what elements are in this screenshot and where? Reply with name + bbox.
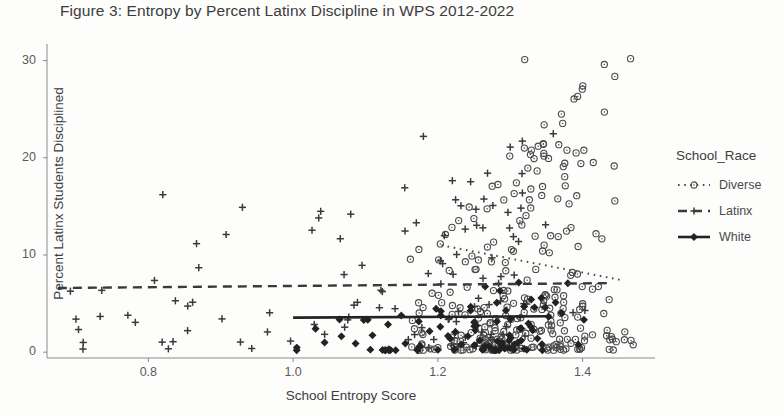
data-point-diverse — [446, 267, 452, 273]
data-point-white — [312, 325, 318, 331]
data-point-diverse — [531, 155, 537, 161]
data-point-diverse — [561, 299, 567, 305]
data-point-diverse — [564, 336, 570, 342]
data-point-latinx — [515, 238, 522, 245]
data-point-latinx — [480, 195, 487, 202]
data-point-latinx — [449, 271, 456, 278]
data-point-latinx — [401, 227, 408, 234]
data-point-diverse — [550, 331, 556, 337]
data-point-diverse — [528, 205, 534, 211]
data-point-diverse — [507, 153, 513, 159]
data-point-diverse — [490, 287, 496, 293]
data-point-white — [321, 339, 327, 345]
data-point-diverse — [546, 250, 552, 256]
data-point-latinx — [690, 207, 697, 214]
data-point-latinx — [475, 295, 482, 302]
data-point-latinx — [455, 308, 462, 315]
data-point-latinx — [172, 297, 179, 304]
data-point-diverse — [449, 302, 455, 308]
data-point-diverse — [548, 233, 554, 239]
data-point-diverse — [599, 236, 605, 242]
data-point-diverse — [581, 147, 587, 153]
data-point-latinx — [315, 214, 322, 221]
trend-line-white — [293, 316, 550, 317]
data-point-diverse — [511, 190, 517, 196]
data-point-diverse — [621, 337, 627, 343]
data-point-latinx — [340, 271, 347, 278]
data-point-latinx — [358, 262, 365, 269]
data-point-white — [539, 347, 545, 353]
data-point-diverse — [528, 335, 534, 341]
data-point-diverse — [566, 201, 572, 207]
data-point-latinx — [193, 240, 200, 247]
x-axis-label: School Entropy Score — [47, 388, 655, 403]
data-point-latinx — [452, 196, 459, 203]
data-point-diverse — [435, 292, 441, 298]
data-point-diverse — [416, 310, 422, 316]
data-point-latinx — [506, 224, 513, 231]
data-point-diverse — [495, 181, 501, 187]
data-point-white — [416, 318, 422, 324]
data-point-diverse — [578, 160, 584, 166]
data-point-diverse — [524, 277, 530, 283]
data-point-latinx — [510, 233, 517, 240]
legend-key-dotted-open-circle-icon — [676, 175, 712, 195]
data-point-diverse — [561, 293, 567, 299]
data-point-diverse — [590, 159, 596, 165]
data-point-latinx — [430, 336, 437, 343]
data-point-diverse — [481, 305, 487, 311]
data-point-diverse — [503, 268, 509, 274]
legend-item-latinx[interactable]: Latinx — [676, 198, 761, 224]
data-point-diverse — [541, 122, 547, 128]
data-point-latinx — [72, 316, 79, 323]
data-point-diverse — [420, 304, 426, 310]
data-point-latinx — [453, 251, 460, 258]
data-point-latinx — [504, 209, 511, 216]
data-point-latinx — [550, 130, 557, 137]
legend-label: White — [719, 230, 751, 244]
data-point-diverse — [491, 239, 497, 245]
data-point-diverse — [407, 256, 413, 262]
legend-item-white[interactable]: White — [676, 224, 761, 250]
data-point-diverse — [523, 212, 529, 218]
data-point-latinx — [287, 337, 294, 344]
legend-item-diverse[interactable]: Diverse — [676, 172, 761, 198]
data-point-diverse — [522, 57, 528, 63]
data-point-latinx — [453, 318, 460, 325]
data-point-latinx — [413, 219, 420, 226]
x-tick-label: 1.2 — [418, 365, 458, 379]
points-layer — [67, 56, 637, 354]
data-point-diverse — [526, 197, 532, 203]
data-point-latinx — [264, 328, 271, 335]
data-point-diverse — [501, 197, 507, 203]
data-point-diverse — [484, 244, 490, 250]
data-point-diverse — [568, 224, 574, 230]
data-point-latinx — [195, 264, 202, 271]
data-point-diverse — [627, 56, 633, 62]
data-point-diverse — [525, 165, 531, 171]
data-point-diverse — [560, 120, 566, 126]
data-point-diverse — [557, 320, 563, 326]
data-point-latinx — [132, 319, 139, 326]
data-point-latinx — [479, 224, 486, 231]
data-point-diverse — [568, 340, 574, 346]
data-point-diverse — [513, 180, 519, 186]
data-point-latinx — [391, 305, 398, 312]
data-point-latinx — [223, 231, 230, 238]
data-point-white — [367, 346, 373, 352]
data-point-diverse — [610, 347, 616, 353]
data-point-diverse — [556, 142, 562, 148]
data-point-diverse — [502, 259, 508, 265]
data-point-latinx — [519, 189, 526, 196]
data-point-diverse — [533, 266, 539, 272]
legend-key-dashed-plus-icon — [676, 201, 712, 221]
data-point-diverse — [577, 325, 583, 331]
data-point-diverse — [521, 145, 527, 151]
data-point-diverse — [601, 310, 607, 316]
x-tick-label: 1.0 — [273, 365, 313, 379]
data-point-diverse — [528, 147, 534, 153]
data-point-latinx — [184, 327, 191, 334]
data-point-diverse — [429, 290, 435, 296]
data-point-latinx — [218, 315, 225, 322]
data-point-latinx — [337, 235, 344, 242]
